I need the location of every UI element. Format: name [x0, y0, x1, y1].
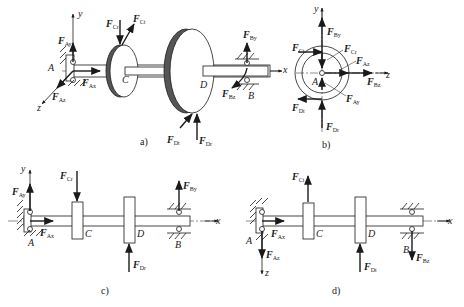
- force-f-ay-label: FAy: [58, 36, 71, 47]
- d-point-c-label: C: [316, 229, 323, 239]
- x-axis-label: x: [283, 65, 287, 75]
- d-force-f-ct-label: FCt: [292, 172, 304, 183]
- d-z-axis-label: z: [265, 268, 269, 278]
- b-force-f-dt-label: FDt: [292, 103, 305, 114]
- force-f-bz-label: FBz: [222, 89, 235, 100]
- b-force-f-bz-label: FBz: [367, 77, 380, 88]
- c-point-c-label: C: [85, 229, 92, 239]
- caption-a: a): [140, 137, 148, 147]
- d-point-d-label: D: [368, 229, 375, 239]
- c-y-axis-label: y: [21, 164, 25, 174]
- z-axis-label: z: [37, 103, 41, 113]
- b-point-a-label: A: [312, 77, 318, 87]
- c-x-axis-label: x: [216, 216, 220, 226]
- force-f-dr-label: FDr: [199, 136, 212, 147]
- caption-b: b): [322, 140, 330, 150]
- b-y-axis-label: y: [314, 4, 318, 14]
- b-force-f-by-label: FBy: [327, 27, 341, 38]
- b-force-f-az-label: FAz: [356, 56, 370, 67]
- c-point-d-label: D: [137, 229, 144, 239]
- point-d-label: D: [200, 80, 207, 90]
- panel-b: [295, 8, 388, 132]
- y-axis-label: y: [78, 9, 82, 19]
- force-f-ax-label: FAx: [82, 78, 96, 89]
- d-force-f-az-label: FAz: [266, 250, 280, 261]
- d-point-b-label: B: [403, 245, 409, 255]
- b-force-f-ct-label: FCt: [292, 43, 304, 54]
- c-point-b-label: B: [175, 240, 181, 250]
- c-force-f-ay-label: FAy: [12, 187, 25, 198]
- force-f-az-label: FAz: [52, 92, 66, 103]
- force-f-ct-label: FCt: [133, 14, 145, 25]
- c-force-f-ax-label: FAx: [40, 228, 54, 239]
- b-force-f-dr-label: FDr: [326, 122, 339, 133]
- c-force-f-dr-label: FDr: [133, 260, 146, 271]
- d-force-f-ax-label: FAx: [271, 229, 285, 240]
- c-force-f-cr-label: FCr: [60, 171, 73, 182]
- d-force-f-dt-label: FDt: [364, 262, 377, 273]
- b-z-axis-label: z: [386, 70, 390, 80]
- c-force-f-by-label: FBy: [183, 181, 197, 192]
- caption-d: d): [332, 286, 340, 296]
- point-b-label: B: [248, 91, 254, 101]
- point-c-label: C: [122, 75, 129, 85]
- b-force-f-cr-label: FCr: [344, 44, 357, 55]
- c-point-a-label: A: [28, 238, 34, 248]
- d-force-f-bz-label: FBz: [416, 253, 429, 264]
- d-x-axis-label: x: [448, 216, 452, 226]
- force-f-cr-label: FCr: [106, 19, 119, 30]
- d-point-a-label: A: [246, 236, 252, 246]
- force-f-by-label: FBy: [243, 30, 257, 41]
- force-f-dt-label: FDt: [167, 135, 180, 146]
- point-a-label: A: [48, 63, 54, 73]
- caption-c: c): [101, 286, 109, 296]
- b-force-f-ay-label: FAy: [346, 94, 359, 105]
